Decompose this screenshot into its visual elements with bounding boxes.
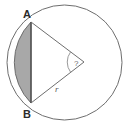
radius-line-to-a [31, 22, 84, 62]
radius-line-to-b [31, 62, 84, 103]
shaded-segment [14, 22, 31, 103]
point-a-label: A [23, 8, 31, 20]
point-b-label: B [23, 108, 31, 120]
angle-arc-icon [67, 52, 70, 72]
radius-label: r [55, 84, 59, 94]
angle-question-label: ? [74, 59, 79, 68]
geometry-figure: A B r ? [0, 0, 133, 128]
figure-canvas: A B r ? [0, 0, 133, 128]
